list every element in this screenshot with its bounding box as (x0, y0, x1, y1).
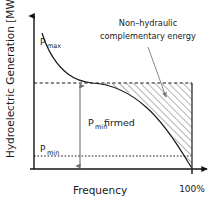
pmin-label-subscript: min (47, 149, 59, 157)
pmin-label: P min (40, 144, 59, 157)
pmin-label-base: P (40, 144, 46, 154)
region-annotation: Non–hydraulic complementary energy (100, 18, 196, 41)
pmin-firmed-label: P min firmed (88, 117, 135, 131)
x-tick-label-100-percent: 100% (179, 184, 205, 194)
annotation-line-2: complementary energy (100, 31, 196, 41)
pmin-firmed-tail: firmed (104, 117, 135, 128)
pmax-label: P max (40, 37, 61, 50)
y-axis-label: Hydroelectric Generation [MW] (4, 0, 16, 158)
pmax-label-base: P (40, 37, 46, 47)
pmin-firmed-base: P (88, 117, 94, 128)
annotation-line-1: Non–hydraulic (119, 18, 177, 28)
x-axis-label: Frequency (73, 184, 127, 196)
figure-container: Hydroelectric Generation [MW] Frequency … (0, 0, 219, 201)
pmax-label-subscript: max (47, 42, 61, 50)
hydroelectric-duration-curve-figure: Hydroelectric Generation [MW] Frequency … (0, 0, 219, 201)
